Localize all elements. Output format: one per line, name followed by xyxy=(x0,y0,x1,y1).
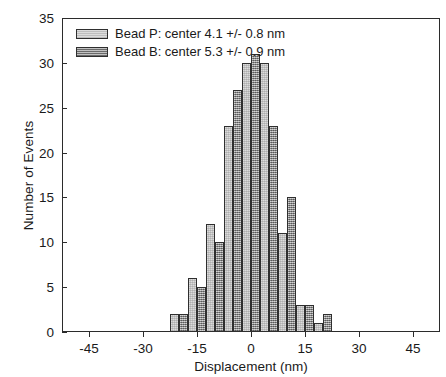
legend-swatch-bead-b xyxy=(76,47,108,57)
y-tick-label: 35 xyxy=(0,11,54,26)
y-tick-label: 10 xyxy=(0,235,54,250)
histogram-chart: Number of Events 05101520253035 -45-30-1… xyxy=(0,0,446,377)
legend-item-bead-b: Bead B: center 5.3 +/- 0.9 nm xyxy=(76,43,285,60)
x-tick-label: -15 xyxy=(172,341,222,356)
bar-bead-b xyxy=(233,90,242,332)
y-tick-mark xyxy=(62,332,67,333)
x-tick-mark xyxy=(305,332,306,337)
bar-bead-p xyxy=(206,224,215,332)
x-tick-label: 15 xyxy=(280,341,330,356)
chart-legend: Bead P: center 4.1 +/- 0.8 nm Bead B: ce… xyxy=(76,25,285,61)
x-tick-label: -30 xyxy=(118,341,168,356)
bars-layer xyxy=(62,18,440,332)
x-tick-label: -45 xyxy=(64,341,114,356)
x-axis-title: Displacement (nm) xyxy=(62,359,440,374)
bar-bead-b xyxy=(323,314,332,332)
y-tick-label: 0 xyxy=(0,325,54,340)
bar-bead-p xyxy=(260,63,269,332)
x-tick-label: 30 xyxy=(334,341,384,356)
bar-bead-p xyxy=(188,278,197,332)
legend-item-bead-p: Bead P: center 4.1 +/- 0.8 nm xyxy=(76,25,285,42)
y-tick-label: 20 xyxy=(0,145,54,160)
x-tick-label: 0 xyxy=(226,341,276,356)
y-axis-title: Number of Events xyxy=(21,56,36,296)
y-tick-label: 15 xyxy=(0,190,54,205)
bar-bead-p xyxy=(242,63,251,332)
bar-bead-b xyxy=(305,305,314,332)
legend-label-bead-p: Bead P: center 4.1 +/- 0.8 nm xyxy=(115,27,285,40)
bar-bead-p xyxy=(278,233,287,332)
x-tick-mark xyxy=(89,332,90,337)
x-tick-mark xyxy=(143,332,144,337)
bar-bead-b xyxy=(179,314,188,332)
y-tick-label: 25 xyxy=(0,100,54,115)
legend-label-bead-b: Bead B: center 5.3 +/- 0.9 nm xyxy=(115,45,285,58)
x-tick-mark xyxy=(413,332,414,337)
bar-bead-b xyxy=(251,54,260,332)
x-tick-mark xyxy=(251,332,252,337)
bar-bead-b xyxy=(197,287,206,332)
bar-bead-p xyxy=(170,314,179,332)
y-tick-label: 30 xyxy=(0,55,54,70)
legend-swatch-bead-p xyxy=(76,29,108,39)
x-tick-mark xyxy=(359,332,360,337)
bar-bead-p xyxy=(314,323,323,332)
x-tick-label: 45 xyxy=(388,341,438,356)
bar-bead-b xyxy=(287,197,296,332)
x-tick-mark xyxy=(197,332,198,337)
bar-bead-p xyxy=(224,126,233,332)
bar-bead-b xyxy=(215,242,224,332)
bar-bead-p xyxy=(296,305,305,332)
bar-bead-b xyxy=(269,126,278,332)
y-tick-label: 5 xyxy=(0,280,54,295)
